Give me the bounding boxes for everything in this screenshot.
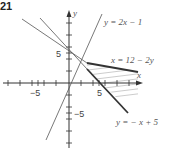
coordinate-plane-figure: 21 <box>0 0 172 150</box>
y-axis: y 5 −5 <box>56 8 84 148</box>
line3-label: y = − x + 5 <box>115 117 158 127</box>
line2-label: x = 12 − 2y <box>110 55 154 65</box>
y-tick-label-neg5: −5 <box>74 109 84 119</box>
y-tick-label-5: 5 <box>56 49 61 59</box>
x-tick-label-neg5: −5 <box>30 88 40 98</box>
y-axis-label: y <box>72 8 77 18</box>
line1-label: y = 2x − 1 <box>103 17 142 27</box>
x-tick-label-5: 5 <box>97 88 102 98</box>
x-axis: x −5 5 <box>3 70 143 98</box>
problem-number: 21 <box>0 0 12 12</box>
y-axis-arrow-icon <box>67 10 72 17</box>
x-axis-arrow-icon <box>136 81 143 86</box>
